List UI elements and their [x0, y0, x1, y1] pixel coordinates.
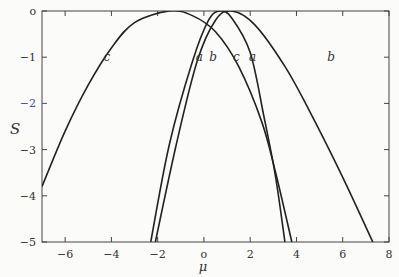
chart: −6−4−2o2468o−1−2−3−4−5 aabbcc μ S	[0, 0, 399, 277]
x-tick-label: 2	[247, 248, 254, 261]
y-tick-label: −3	[20, 144, 36, 157]
y-axis-title: S	[10, 120, 20, 138]
x-tick-label: −4	[103, 248, 119, 261]
y-tick-label: o	[29, 5, 36, 18]
plot-frame: −6−4−2o2468o−1−2−3−4−5	[20, 5, 393, 261]
curve-c	[42, 11, 292, 242]
curve-label-b: b	[209, 50, 217, 64]
curve-label-b: b	[327, 50, 335, 64]
y-tick-label: −2	[20, 97, 36, 110]
curve-label-a: a	[249, 50, 256, 64]
curve-labels: aabbcc	[103, 50, 335, 64]
curve-a	[151, 11, 285, 242]
x-axis-title: μ	[199, 259, 207, 274]
x-tick-label: −2	[150, 248, 166, 261]
plot-border	[42, 11, 389, 242]
curve-label-a: a	[196, 50, 203, 64]
curves	[42, 11, 373, 242]
x-tick-label: 4	[293, 248, 300, 261]
y-tick-label: −4	[20, 190, 36, 203]
y-tick-label: −5	[20, 236, 36, 249]
y-tick-label: −1	[20, 51, 36, 64]
x-tick-label: 6	[339, 248, 346, 261]
x-tick-label: −6	[57, 248, 73, 261]
curve-label-c: c	[103, 50, 110, 64]
curve-label-c: c	[233, 50, 240, 64]
chart-canvas: −6−4−2o2468o−1−2−3−4−5 aabbcc μ S	[0, 0, 399, 277]
x-tick-label: 8	[386, 248, 393, 261]
